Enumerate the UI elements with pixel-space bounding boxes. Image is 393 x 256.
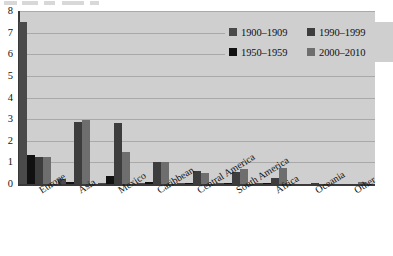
bar: [82, 120, 90, 184]
bar: [19, 22, 27, 184]
bar-group: [58, 11, 90, 184]
legend-entry: 1900–1909: [229, 27, 307, 38]
bar-group: [137, 11, 169, 184]
legend-entry: 1990–1999: [307, 27, 391, 38]
bar: [74, 122, 82, 184]
legend: 1900–19091990–19991950–19592000–2010: [225, 22, 393, 62]
plot-area: 1900–19091990–19991950–19592000–2010: [18, 11, 375, 186]
bar: [224, 183, 232, 184]
bar: [98, 183, 106, 184]
legend-label: 1900–1909: [241, 27, 287, 38]
bar: [35, 157, 43, 184]
bar-group: [98, 11, 130, 184]
y-axis-tick-label: 8: [8, 6, 13, 16]
y-axis-tick-label: 7: [8, 28, 13, 38]
bar: [66, 182, 74, 184]
bar: [27, 155, 35, 184]
scan-artifact-mark: [62, 1, 84, 5]
y-axis-tick-label: 5: [8, 71, 13, 81]
y-axis-tick-label: 4: [8, 93, 13, 103]
bar: [263, 183, 271, 184]
bar: [153, 162, 161, 184]
bar: [145, 182, 153, 184]
y-axis-tick-label: 2: [8, 136, 13, 146]
legend-swatch-icon: [229, 48, 237, 56]
bar: [114, 123, 122, 184]
x-axis: EuropeAsiaMexicoCaribbeanCentral America…: [18, 186, 377, 256]
y-axis-tick-label: 1: [8, 157, 13, 167]
y-axis-tick-label: 3: [8, 114, 13, 124]
y-axis-tick-label: 0: [8, 179, 13, 189]
scan-artifact-mark: [90, 1, 99, 5]
legend-swatch-icon: [307, 28, 315, 36]
legend-entry: 2000–2010: [307, 47, 391, 58]
y-axis: 876543210: [0, 11, 15, 184]
scan-artifact-mark: [22, 1, 38, 5]
scan-artifact-strip: [0, 0, 377, 7]
legend-label: 1950–1959: [241, 47, 287, 58]
bar: [106, 176, 114, 184]
bar-group: [19, 11, 51, 184]
legend-swatch-icon: [307, 48, 315, 56]
legend-swatch-icon: [229, 28, 237, 36]
bar: [185, 183, 193, 184]
legend-label: 1990–1999: [319, 27, 365, 38]
y-axis-tick-label: 6: [8, 49, 13, 59]
bar-group: [177, 11, 209, 184]
legend-entry: 1950–1959: [229, 47, 307, 58]
legend-label: 2000–2010: [319, 47, 365, 58]
scan-artifact-mark: [44, 1, 55, 5]
